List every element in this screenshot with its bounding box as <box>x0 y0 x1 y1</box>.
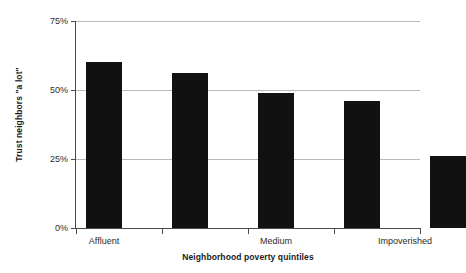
x-tick-mark-2 <box>162 229 163 234</box>
y-tick-label-75: 75% <box>32 16 68 26</box>
y-axis-title: Trust neighbors "a lot" <box>12 0 26 229</box>
bar-quintile-3 <box>258 93 294 228</box>
bar-quintile-2 <box>172 73 208 228</box>
gridline-50 <box>76 90 420 91</box>
gridline-75 <box>76 21 420 22</box>
x-tick-label-impoverished: Impoverished <box>345 236 465 246</box>
x-tick-label-affluent: Affluent <box>44 236 164 246</box>
bar-quintile-5 <box>430 156 466 228</box>
x-tick-mark-3 <box>248 229 249 234</box>
bar-quintile-1 <box>86 62 122 228</box>
bar-quintile-4 <box>344 101 380 228</box>
y-tick-label-0: 0% <box>32 223 68 233</box>
x-tick-mark-5 <box>420 229 421 234</box>
plot-area <box>76 21 420 228</box>
x-tick-mark-4 <box>334 229 335 234</box>
y-tick-label-25: 25% <box>32 154 68 164</box>
x-axis-title: Neighborhood poverty quintiles <box>76 252 420 262</box>
x-tick-label-medium: Medium <box>216 236 336 246</box>
y-tick-label-50: 50% <box>32 85 68 95</box>
x-tick-mark-1 <box>76 229 77 234</box>
